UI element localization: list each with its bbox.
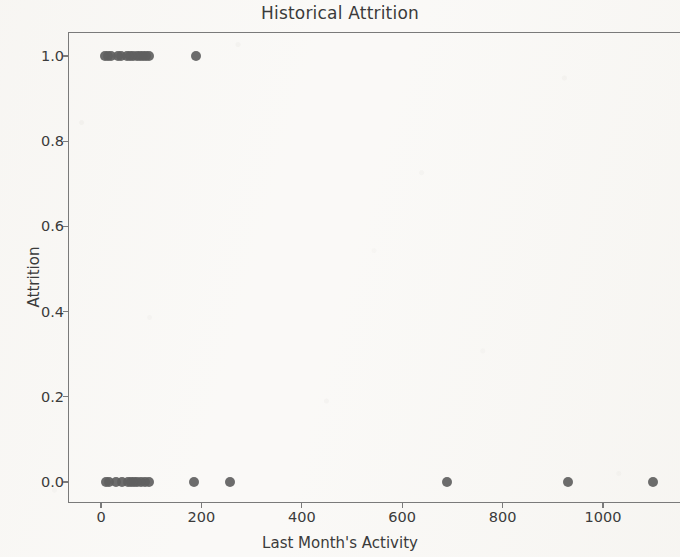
x-axis-label: Last Month's Activity (0, 534, 680, 552)
x-tick-label: 400 (288, 509, 316, 525)
y-tick-mark (63, 226, 68, 227)
y-tick-label: 0.0 (28, 474, 64, 490)
y-tick-label: 0.8 (28, 133, 64, 149)
chart-title: Historical Attrition (0, 3, 680, 23)
x-tick-label: 600 (388, 509, 416, 525)
scatter-plot-area (68, 32, 680, 503)
y-tick-label: 1.0 (28, 48, 64, 64)
data-point (144, 477, 154, 487)
x-axis-tick-marks (0, 503, 680, 509)
data-point (563, 477, 573, 487)
data-point (189, 477, 199, 487)
y-tick-mark (63, 311, 68, 312)
x-tick-label: 1000 (585, 509, 622, 525)
x-tick-mark (602, 503, 603, 508)
x-axis-tick-labels: 02004006008001000 (0, 509, 680, 531)
chart-figure: Historical Attrition 0.00.20.40.60.81.0 … (0, 0, 680, 557)
data-point (144, 51, 154, 61)
y-tick-mark (63, 55, 68, 56)
x-tick-label: 200 (188, 509, 216, 525)
y-axis-tick-marks (63, 32, 69, 503)
x-tick-mark (402, 503, 403, 508)
x-tick-mark (201, 503, 202, 508)
x-tick-mark (502, 503, 503, 508)
y-axis-label: Attrition (25, 217, 43, 337)
data-point (191, 51, 201, 61)
x-tick-label: 800 (489, 509, 517, 525)
x-tick-mark (100, 503, 101, 508)
y-tick-mark (63, 481, 68, 482)
y-tick-mark (63, 141, 68, 142)
y-tick-mark (63, 396, 68, 397)
x-tick-mark (301, 503, 302, 508)
data-point (225, 477, 235, 487)
y-tick-label: 0.2 (28, 389, 64, 405)
data-point (442, 477, 452, 487)
data-point (648, 477, 658, 487)
x-tick-label: 0 (96, 509, 105, 525)
